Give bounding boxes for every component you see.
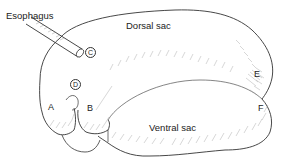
label-c-circled: C bbox=[85, 47, 96, 58]
lower-connector bbox=[62, 135, 100, 152]
label-dorsal-sac: Dorsal sac bbox=[126, 21, 171, 31]
label-ventral-sac: Ventral sac bbox=[149, 123, 196, 133]
label-b: B bbox=[87, 104, 93, 113]
fold-near-d bbox=[66, 96, 78, 111]
label-f: F bbox=[258, 104, 264, 113]
lobe-b-outline bbox=[78, 110, 110, 134]
label-a: A bbox=[48, 103, 54, 112]
esophagus-tube bbox=[26, 17, 85, 58]
label-e: E bbox=[254, 70, 260, 79]
lobe-a-outline bbox=[42, 108, 76, 135]
label-d-circled: D bbox=[70, 79, 81, 90]
label-esophagus: Esophagus bbox=[6, 11, 54, 21]
rumen-diagram: Esophagus Dorsal sac Ventral sac A B C D… bbox=[0, 0, 282, 165]
longitudinal-groove bbox=[108, 80, 262, 120]
cranial-outline bbox=[40, 38, 60, 112]
